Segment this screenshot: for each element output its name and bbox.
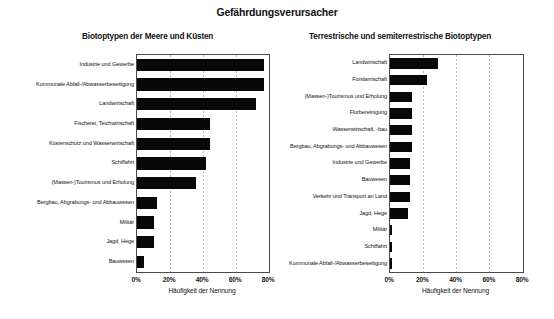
bar — [390, 75, 427, 85]
category-label: Flurbereinigung — [350, 110, 387, 116]
category-label: (Massen-)Tourismus und Erholung — [52, 180, 134, 186]
bar-row: Bergbau, Abgrabungs- und Abbauwesen — [137, 193, 269, 213]
figure-title: Gefährdungsverursacher — [0, 6, 554, 18]
category-label: Landwirtschaft — [352, 60, 387, 66]
x-axis-ticks-right: 0%20%40%60%80% — [389, 273, 522, 287]
bar — [390, 158, 410, 168]
category-label: Fischerei, Teichwirtschaft — [74, 121, 134, 127]
bar-row: Schiffahrt — [390, 239, 523, 256]
bar — [390, 142, 412, 152]
bar — [137, 256, 144, 268]
x-tick-label: 40% — [196, 276, 209, 283]
bar-row: Bauwesen — [137, 252, 269, 272]
x-axis-ticks-left: 0%20%40%60%80% — [136, 273, 268, 287]
bar — [137, 177, 196, 189]
bar — [137, 118, 210, 130]
bar-row: Schiffahrt — [137, 154, 269, 174]
category-label: Bauwesen — [362, 177, 387, 183]
bar — [390, 242, 392, 252]
bar-row: Fischerei, Teichwirtschaft — [137, 114, 269, 134]
bar — [390, 92, 412, 102]
bar-row: Industrie und Gewerbe — [390, 155, 523, 172]
category-label: Schiffahrt — [364, 244, 387, 250]
category-label: Verkehr und Transport an Land — [313, 194, 387, 200]
x-tick-label: 80% — [516, 276, 529, 283]
bar-row: Bergbau, Abgrabungs- und Abbauwesen — [390, 138, 523, 155]
bar — [137, 78, 264, 90]
bar-row: Bauwesen — [390, 172, 523, 189]
bar — [137, 216, 154, 228]
x-tick-label: 20% — [163, 276, 176, 283]
bar — [390, 175, 410, 185]
x-tick-label: 60% — [482, 276, 495, 283]
chart-subtitle-right: Terrestrische und semiterrestrische Biot… — [309, 32, 491, 41]
plot-area-left: Industrie und GewerbeKommunale Abfall-/A… — [136, 54, 270, 273]
bar-row: Kommunale Abfall-/Abwasserbeseitigung — [137, 75, 269, 95]
category-label: Kommunale Abfall-/Abwasserbeseitigung — [36, 82, 134, 88]
bar — [137, 157, 206, 169]
category-label: Wasserwirtschaft, -bau — [333, 127, 387, 133]
x-axis-title-right: Häufigkeit der Nennung — [389, 287, 522, 294]
category-label: Kommunale Abfall-/Abwasserbeseitigung — [289, 261, 387, 267]
category-label: (Massen-)Tourismus und Erholung — [305, 94, 387, 100]
bar-row: Wasserwirtschaft, -bau — [390, 122, 523, 139]
category-label: Militär — [120, 220, 134, 226]
category-label: Landwirtschaft — [99, 101, 134, 107]
bar-rows-right: LandwirtschaftForstwirtschaft(Massen-)To… — [390, 55, 523, 272]
category-label: Industrie und Gewerbe — [80, 62, 135, 68]
x-tick-label: 80% — [262, 276, 275, 283]
plot-area-right: LandwirtschaftForstwirtschaft(Massen-)To… — [389, 54, 524, 273]
bar-row: Küstenschutz und Wasserwirtschaft — [137, 134, 269, 154]
category-label: Küstenschutz und Wasserwirtschaft — [49, 141, 134, 147]
bar — [137, 138, 210, 150]
bar — [390, 192, 410, 202]
category-label: Schiffahrt — [111, 160, 134, 166]
x-tick-label: 40% — [449, 276, 462, 283]
figure-root: Gefährdungsverursacher Biotoptypen der M… — [0, 0, 554, 319]
bar-row: Flurbereinigung — [390, 105, 523, 122]
category-label: Jagd, Hege — [359, 211, 387, 217]
x-tick-label: 20% — [416, 276, 429, 283]
bar-row: Landwirtschaft — [137, 94, 269, 114]
x-axis-title-left: Häufigkeit der Nennung — [136, 287, 268, 294]
bar-row: Kommunale Abfall-/Abwasserbeseitigung — [390, 255, 523, 272]
bar — [137, 59, 264, 71]
bar-row: Jagd, Hege — [137, 232, 269, 252]
category-label: Bergbau, Abgrabungs- und Abbauwesen — [290, 144, 387, 150]
bar — [390, 125, 412, 135]
x-tick-label: 0% — [131, 276, 140, 283]
bar-row: Forstwirtschaft — [390, 72, 523, 89]
bar — [390, 225, 392, 235]
x-tick-label: 0% — [384, 276, 393, 283]
bar-row: (Massen-)Tourismus und Erholung — [390, 88, 523, 105]
category-label: Forstwirtschaft — [352, 77, 387, 83]
bar-rows-left: Industrie und GewerbeKommunale Abfall-/A… — [137, 55, 269, 272]
category-label: Jagd, Hege — [106, 239, 134, 245]
category-label: Bergbau, Abgrabungs- und Abbauwesen — [37, 200, 134, 206]
category-label: Militär — [373, 227, 387, 233]
bar-row: (Massen-)Tourismus und Erholung — [137, 173, 269, 193]
chart-subtitle-left: Biotoptypen der Meere und Küsten — [82, 32, 213, 41]
bar-row: Jagd, Hege — [390, 205, 523, 222]
bar-row: Militär — [390, 222, 523, 239]
bar — [137, 236, 154, 248]
bar-row: Militär — [137, 213, 269, 233]
bar — [137, 98, 256, 110]
category-label: Bauwesen — [109, 259, 134, 265]
bar-row: Landwirtschaft — [390, 55, 523, 72]
bar — [137, 197, 157, 209]
bar — [390, 58, 438, 68]
x-tick-label: 60% — [229, 276, 242, 283]
bar — [390, 258, 392, 268]
category-label: Industrie und Gewerbe — [333, 160, 388, 166]
bar — [390, 108, 412, 118]
bar — [390, 208, 408, 218]
bar-row: Verkehr und Transport an Land — [390, 189, 523, 206]
bar-row: Industrie und Gewerbe — [137, 55, 269, 75]
